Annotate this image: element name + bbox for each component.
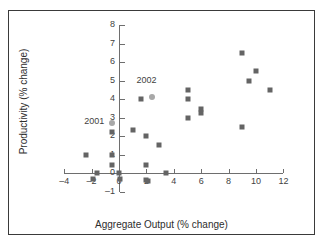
- y-tick-label: 6: [89, 56, 115, 66]
- data-point: [145, 179, 150, 184]
- data-point: [95, 171, 100, 176]
- y-tick: [120, 99, 125, 100]
- y-tick: [120, 25, 125, 26]
- y-tick: [120, 136, 125, 137]
- data-point: [240, 124, 245, 129]
- data-point: [84, 152, 89, 157]
- data-point: [110, 152, 115, 157]
- x-tick-label: 12: [269, 176, 297, 186]
- y-axis-line: [119, 25, 120, 192]
- y-tick-label: 5: [89, 75, 115, 85]
- x-tick: [283, 169, 284, 173]
- x-tick: [146, 169, 147, 173]
- data-point: [138, 97, 143, 102]
- data-point: [267, 87, 272, 92]
- y-tick: [120, 81, 125, 82]
- x-tick-label: 4: [160, 176, 188, 186]
- y-tick-label: 8: [89, 19, 115, 29]
- x-tick: [229, 169, 230, 173]
- y-tick-label: –1: [89, 186, 115, 196]
- x-tick-label: 6: [187, 176, 215, 186]
- data-point: [110, 162, 115, 167]
- data-point: [118, 177, 123, 182]
- data-point: [185, 115, 190, 120]
- data-point: [110, 130, 115, 135]
- data-point: [185, 87, 190, 92]
- x-tick: [174, 169, 175, 173]
- y-tick: [120, 155, 125, 156]
- x-tick-label: –4: [50, 176, 78, 186]
- data-point: [144, 162, 149, 167]
- data-point: [163, 171, 168, 176]
- chart-figure: –4–2024681012–101234567820012002 Aggrega…: [0, 0, 323, 249]
- x-tick-label: 8: [215, 176, 243, 186]
- highlight-data-point: [149, 94, 155, 100]
- x-tick-label: 10: [242, 176, 270, 186]
- x-axis-label: Aggregate Output (% change): [0, 219, 323, 230]
- x-tick: [201, 169, 202, 173]
- x-tick: [64, 169, 65, 173]
- data-point: [156, 143, 161, 148]
- data-point: [144, 134, 149, 139]
- y-axis-label: Productivity (% change): [18, 22, 29, 182]
- data-point: [130, 128, 135, 133]
- data-label: 2001: [84, 116, 104, 126]
- data-point: [117, 171, 122, 176]
- y-tick-label: 7: [89, 38, 115, 48]
- y-tick: [120, 192, 125, 193]
- data-point: [247, 78, 252, 83]
- highlight-data-point: [109, 120, 115, 126]
- y-tick: [120, 44, 125, 45]
- data-label: 2002: [136, 75, 156, 85]
- data-point: [199, 110, 204, 115]
- data-point: [254, 69, 259, 74]
- data-point: [240, 50, 245, 55]
- plot-area: –4–2024681012–101234567820012002: [9, 11, 316, 236]
- y-tick: [120, 62, 125, 63]
- y-tick-label: 4: [89, 93, 115, 103]
- data-point: [185, 97, 190, 102]
- x-tick: [256, 169, 257, 173]
- data-point: [90, 176, 95, 181]
- y-tick: [120, 118, 125, 119]
- plot-frame: –4–2024681012–101234567820012002: [8, 10, 315, 235]
